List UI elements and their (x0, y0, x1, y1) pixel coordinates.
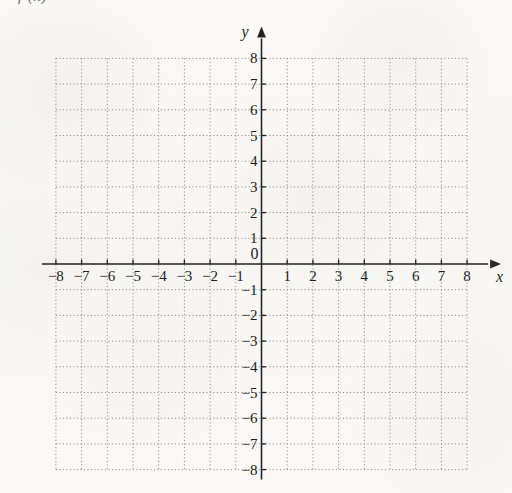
x-axis-label: x (496, 268, 503, 286)
y-tick-label-pos7: 7 (250, 77, 258, 92)
graph-page: f (x) −8−7−6−5−4−3−2−11234567887654321−1… (0, 0, 512, 493)
y-tick-label-pos4: 4 (250, 154, 258, 169)
x-tick-label-pos5: 5 (386, 269, 394, 284)
x-tick-label-pos1: 1 (283, 269, 291, 284)
x-tick-label-neg5: −5 (125, 269, 141, 284)
x-tick-label-pos6: 6 (412, 269, 420, 284)
x-tick-label-neg8: −8 (48, 269, 64, 284)
y-tick-label-neg3: −3 (242, 334, 258, 349)
y-tick-label-neg5: −5 (242, 385, 258, 400)
x-tick-label-pos2: 2 (309, 269, 317, 284)
x-tick-label-neg3: −3 (176, 269, 192, 284)
x-tick-label-neg7: −7 (74, 269, 90, 284)
y-tick-label-pos1: 1 (250, 231, 258, 246)
y-tick-label-pos8: 8 (250, 51, 258, 66)
y-tick-label-neg7: −7 (242, 436, 258, 451)
y-axis-arrowhead (257, 26, 266, 37)
y-tick-label-pos5: 5 (250, 128, 258, 143)
y-tick-label-pos6: 6 (250, 102, 258, 117)
x-tick-label-neg2: −2 (202, 269, 218, 284)
y-tick-label-neg1: −1 (242, 282, 258, 297)
x-tick-label-pos8: 8 (463, 269, 471, 284)
y-tick-label-neg6: −6 (242, 411, 258, 426)
y-tick-label-neg2: −2 (242, 308, 258, 323)
x-tick-label-pos7: 7 (438, 269, 446, 284)
x-tick-label-neg6: −6 (99, 269, 115, 284)
x-tick-label-pos4: 4 (361, 269, 369, 284)
y-tick-label-neg4: −4 (242, 359, 258, 374)
origin-label: 0 (251, 245, 259, 263)
y-axis-label: y (242, 23, 249, 41)
x-tick-label-neg4: −4 (151, 269, 167, 284)
y-tick-label-pos3: 3 (250, 179, 258, 194)
y-tick-label-pos2: 2 (250, 205, 258, 220)
x-tick-label-pos3: 3 (335, 269, 343, 284)
y-tick-label-neg8: −8 (242, 462, 258, 477)
